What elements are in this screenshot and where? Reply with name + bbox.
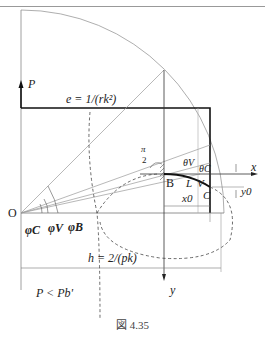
two-label: 2 — [142, 156, 147, 165]
dashed-loop-curve — [97, 174, 233, 259]
y0-label: y0 — [241, 186, 251, 197]
point-B-label: B — [166, 177, 174, 189]
fixed-support-hatch — [160, 164, 164, 180]
y-axis-arrowhead — [162, 274, 166, 281]
pi-label: π — [141, 145, 146, 154]
load-condition-label: P < Pb' — [36, 287, 73, 299]
load-arrow-head — [19, 80, 24, 88]
y-axis-label: y — [170, 284, 175, 296]
x0-label: x0 — [182, 193, 192, 204]
point-V-label: V — [197, 178, 204, 189]
theta-c-label: θC — [199, 164, 211, 174]
phi-c-label: φC — [25, 224, 40, 236]
h-formula-label: h = 2/(pk) — [88, 252, 137, 264]
load-label-P: P — [28, 78, 35, 90]
phi-angle-arcs — [40, 186, 58, 213]
right-angle-arc — [150, 163, 162, 168]
eccentricity-formula: e = 1/(rk²) — [66, 93, 116, 105]
point-C-label: C — [203, 190, 210, 201]
phi-b-label: φB — [68, 221, 83, 233]
x-axis-label: x — [251, 161, 256, 173]
phi-v-label: φV — [48, 222, 63, 234]
origin-O-label: O — [8, 207, 17, 219]
theta-v-label: θV — [183, 158, 194, 168]
figure-caption: 図 4.35 — [0, 316, 265, 332]
length-L-label: L — [186, 178, 192, 189]
diagram-canvas — [0, 0, 265, 353]
